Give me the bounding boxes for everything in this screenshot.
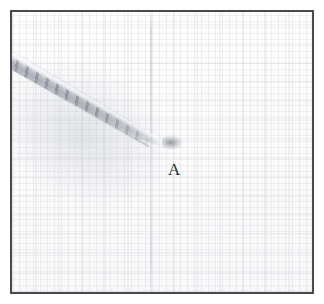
object-halo-shading	[10, 28, 246, 279]
diagonal-object	[12, 12, 314, 294]
scan-seam-line	[150, 12, 152, 292]
object-body	[10, 44, 168, 154]
figure-root: A	[0, 0, 324, 304]
annotation-label-a: A	[168, 161, 180, 178]
object-shadow-edge	[10, 56, 151, 149]
paper-texture	[12, 12, 312, 292]
object-tip	[162, 135, 188, 153]
object-banding-texture	[10, 49, 162, 152]
figure-frame: A	[10, 10, 314, 294]
object-highlight-edge	[10, 47, 158, 141]
object-shaft	[10, 44, 168, 154]
